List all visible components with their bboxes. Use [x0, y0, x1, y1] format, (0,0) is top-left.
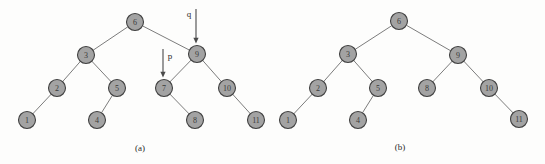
- tree-edge-5-4: [102, 95, 113, 113]
- tree-node-1[interactable]: 1: [280, 112, 297, 129]
- pointer-p: p: [160, 49, 172, 78]
- tree-node-7[interactable]: 7: [156, 80, 173, 97]
- tree-edge-9-10: [203, 60, 222, 81]
- tree-node-6[interactable]: 6: [127, 14, 144, 31]
- tree-figure: qp 6392571014811639258101411 (a)(b): [0, 0, 545, 164]
- node-label-10: 10: [485, 84, 493, 93]
- tree-edge-6-3: [355, 26, 392, 50]
- tree-edge-5-4: [363, 95, 374, 113]
- tree-node-11[interactable]: 11: [248, 112, 265, 129]
- tree-node-8[interactable]: 8: [419, 80, 436, 97]
- pointer-label-p: p: [168, 51, 173, 61]
- tree-edge-7-8: [170, 94, 189, 114]
- node-label-5: 5: [115, 84, 119, 93]
- tree-node-2[interactable]: 2: [49, 80, 66, 97]
- node-label-6: 6: [133, 18, 137, 27]
- node-label-3: 3: [84, 51, 88, 60]
- tree-edge-3-2: [63, 61, 81, 81]
- node-label-8: 8: [425, 84, 429, 93]
- tree-edge-3-2: [324, 60, 343, 81]
- node-label-9: 9: [456, 51, 460, 60]
- tree-node-2[interactable]: 2: [310, 80, 327, 97]
- tree-edge-9-10: [464, 61, 483, 82]
- tree-edge-2-1: [294, 94, 312, 114]
- tree-edge-6-9: [406, 25, 450, 51]
- pointers-layer: qp: [160, 9, 198, 78]
- tree-edge-3-5: [92, 61, 111, 82]
- node-label-7: 7: [162, 84, 166, 93]
- panel-caption-b: (b): [395, 142, 406, 152]
- node-label-11: 11: [252, 116, 260, 125]
- node-label-1: 1: [286, 116, 290, 125]
- node-label-4: 4: [356, 116, 360, 125]
- node-label-2: 2: [55, 84, 59, 93]
- tree-edge-10-11: [495, 94, 513, 113]
- node-label-10: 10: [223, 84, 231, 93]
- tree-node-10[interactable]: 10: [219, 80, 236, 97]
- tree-node-3[interactable]: 3: [78, 47, 95, 64]
- node-label-2: 2: [316, 84, 320, 93]
- tree-edge-9-7: [170, 60, 191, 82]
- pointer-arrowhead-q: [193, 38, 198, 44]
- tree-node-4[interactable]: 4: [350, 112, 367, 129]
- node-label-11: 11: [515, 115, 523, 124]
- panel-caption-a: (a): [135, 143, 145, 153]
- node-label-3: 3: [346, 50, 350, 59]
- diagram-canvas: qp 6392571014811639258101411 (a)(b): [0, 0, 545, 164]
- pointer-q: q: [187, 9, 199, 44]
- tree-edge-10-11: [233, 94, 251, 113]
- node-label-1: 1: [25, 116, 29, 125]
- node-label-8: 8: [193, 116, 197, 125]
- tree-node-11[interactable]: 11: [511, 111, 528, 128]
- node-label-6: 6: [397, 17, 401, 26]
- captions-layer: (a)(b): [135, 142, 405, 153]
- tree-node-5[interactable]: 5: [109, 80, 126, 97]
- tree-node-6[interactable]: 6: [391, 13, 408, 30]
- tree-node-8[interactable]: 8: [187, 112, 204, 129]
- pointer-label-q: q: [187, 9, 192, 19]
- pointer-arrowhead-p: [160, 72, 165, 78]
- tree-node-9[interactable]: 9: [450, 47, 467, 64]
- edges-layer: [33, 25, 513, 114]
- tree-edge-9-8: [433, 61, 452, 82]
- node-label-4: 4: [95, 116, 99, 125]
- tree-node-9[interactable]: 9: [189, 46, 206, 63]
- tree-node-1[interactable]: 1: [19, 112, 36, 129]
- tree-edge-2-1: [33, 94, 51, 114]
- tree-node-4[interactable]: 4: [89, 112, 106, 129]
- node-label-9: 9: [195, 50, 199, 59]
- tree-node-10[interactable]: 10: [481, 80, 498, 97]
- tree-edge-6-9: [143, 26, 190, 50]
- tree-edge-6-3: [93, 27, 128, 51]
- tree-edge-3-5: [354, 60, 373, 81]
- tree-node-3[interactable]: 3: [340, 46, 357, 63]
- nodes-layer: 6392571014811639258101411: [19, 13, 528, 129]
- tree-node-5[interactable]: 5: [370, 80, 387, 97]
- node-label-5: 5: [376, 84, 380, 93]
